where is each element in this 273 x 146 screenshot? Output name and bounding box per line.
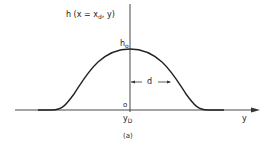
diagram-canvas: [0, 0, 273, 146]
arrowhead-icon: [167, 81, 171, 84]
ylabel: h (x = xd, y): [66, 11, 115, 20]
xaxis-label: y: [242, 115, 247, 123]
ylabel-tail: , y): [102, 10, 115, 19]
axis-arrow-icon: [251, 108, 260, 113]
center-label-subscript: D: [128, 117, 133, 124]
width-label: d: [147, 78, 152, 86]
center-label: yD: [123, 115, 132, 124]
arrowhead-icon: [131, 81, 135, 84]
ylabel-main: h (x = x: [66, 10, 98, 19]
figure-caption: (a): [123, 133, 133, 140]
peak-label: ho: [120, 40, 129, 49]
bell-curve: [38, 49, 224, 110]
peak-label-subscript: o: [125, 42, 129, 49]
origin-label: o: [123, 102, 127, 109]
